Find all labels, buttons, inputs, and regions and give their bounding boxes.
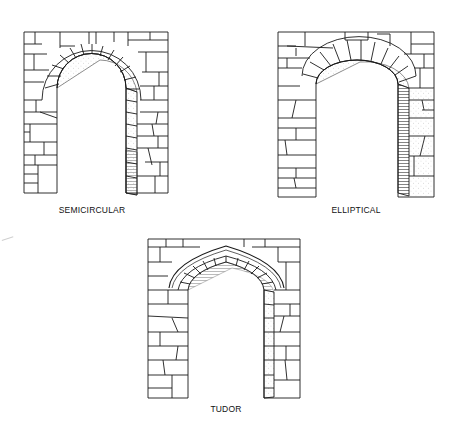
- semicircular-arch: [24, 32, 168, 195]
- tudor-arch: [148, 239, 300, 398]
- label-elliptical: ELLIPTICAL: [304, 205, 408, 215]
- elliptical-arch: [278, 32, 434, 197]
- label-tudor: TUDOR: [174, 404, 278, 414]
- label-semicircular: SEMICIRCULAR: [40, 205, 144, 215]
